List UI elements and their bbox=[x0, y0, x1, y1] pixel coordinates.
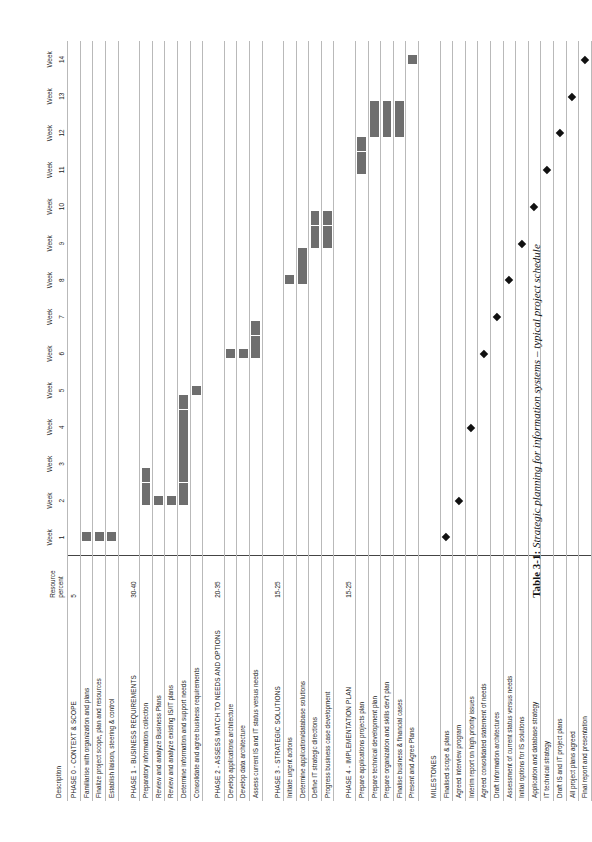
cell-week-11 bbox=[118, 151, 128, 188]
table-row[interactable]: Agreed consolidated statement of needs bbox=[478, 41, 491, 801]
cell-week-7 bbox=[212, 299, 224, 336]
milestone-diamond bbox=[505, 276, 514, 285]
cell-week-10 bbox=[381, 188, 394, 225]
table-row[interactable]: Review and analyze existing IS/IT plans bbox=[165, 41, 178, 801]
cell-week-5 bbox=[478, 372, 491, 409]
table-row[interactable]: PHASE 1 - BUSINESS REQUIREMENTS30-40 bbox=[128, 41, 140, 801]
table-row[interactable]: PHASE 3 - STRATEGIC SOLUTIONS15-25 bbox=[272, 41, 284, 801]
cell-week-4 bbox=[165, 409, 178, 446]
cell-week-10 bbox=[541, 188, 554, 225]
table-row[interactable]: Prepare technical development plan bbox=[368, 41, 381, 801]
cell-week-2 bbox=[105, 482, 118, 519]
cell-week-2 bbox=[212, 482, 224, 519]
table-row[interactable]: Present and Agree Plans bbox=[406, 41, 419, 801]
cell-week-10 bbox=[478, 188, 491, 225]
cell-week-13 bbox=[553, 78, 566, 115]
cell-week-8 bbox=[541, 262, 554, 299]
gantt-bar bbox=[82, 532, 91, 541]
cell-week-10 bbox=[224, 188, 237, 225]
table-row[interactable]: IT technical strategy bbox=[541, 41, 554, 801]
cell-week-4 bbox=[140, 409, 153, 446]
table-row[interactable]: Develop data architecture bbox=[237, 41, 250, 801]
milestone-diamond bbox=[530, 202, 539, 211]
week-word: Week bbox=[46, 346, 53, 362]
gantt-bar bbox=[383, 115, 392, 137]
spacer-row bbox=[419, 41, 429, 801]
table-row[interactable]: Develop applications architecture bbox=[224, 41, 237, 801]
cell-week-13 bbox=[321, 78, 334, 115]
table-row[interactable]: Finalised scope & plans bbox=[440, 41, 453, 801]
cell-week-6 bbox=[516, 335, 529, 372]
cell-week-13 bbox=[343, 78, 355, 115]
week-number: 2 bbox=[58, 499, 65, 503]
cell-week-5 bbox=[491, 372, 504, 409]
cell-week-12 bbox=[465, 115, 478, 152]
cell-week-14 bbox=[465, 41, 478, 78]
cell-week-11 bbox=[93, 151, 106, 188]
cell-week-9 bbox=[224, 225, 237, 262]
table-row[interactable]: Prepare organization and skills dev't pl… bbox=[381, 41, 394, 801]
table-row[interactable]: Application and database strategy bbox=[528, 41, 541, 801]
task-label: Application and database strategy bbox=[528, 601, 541, 801]
table-row[interactable]: Consolidate and agree business requireme… bbox=[190, 41, 203, 801]
cell-week-13 bbox=[541, 78, 554, 115]
cell-week-4 bbox=[419, 409, 429, 446]
table-row[interactable]: Draft Information architectures bbox=[491, 41, 504, 801]
cell-week-4 bbox=[381, 409, 394, 446]
milestone-diamond bbox=[455, 497, 464, 506]
table-row[interactable]: Define IT strategic directions bbox=[309, 41, 322, 801]
cell-week-9 bbox=[368, 225, 381, 262]
cell-week-11 bbox=[393, 151, 406, 188]
table-row[interactable]: MILESTONES bbox=[428, 41, 440, 801]
cell-week-2 bbox=[334, 482, 344, 519]
table-row[interactable]: Establish liaison, steering & control bbox=[105, 41, 118, 801]
cell-week-14 bbox=[440, 41, 453, 78]
table-row[interactable]: Determine information and support needs bbox=[177, 41, 190, 801]
cell-week-7 bbox=[440, 299, 453, 336]
cell-week-8 bbox=[237, 262, 250, 299]
cell-week-2 bbox=[272, 482, 284, 519]
table-row[interactable]: Finalise business & financial cases bbox=[393, 41, 406, 801]
cell-week-1 bbox=[368, 519, 381, 556]
cell-week-3 bbox=[68, 446, 81, 483]
cell-week-7 bbox=[249, 299, 262, 336]
table-row[interactable]: Progress business case development bbox=[321, 41, 334, 801]
table-row[interactable]: PHASE 4 - IMPLEMENTATION PLAN15-25 bbox=[343, 41, 355, 801]
cell-week-6 bbox=[118, 335, 128, 372]
table-row[interactable]: Agreed interview program bbox=[453, 41, 466, 801]
table-row[interactable]: Initiate urgent actions bbox=[284, 41, 297, 801]
cell-week-4 bbox=[68, 409, 81, 446]
table-row[interactable]: All project plans agreed bbox=[566, 41, 579, 801]
cell-week-6 bbox=[68, 335, 81, 372]
table-row[interactable]: Prepare applications projects plan bbox=[356, 41, 369, 801]
table-row[interactable]: Finalize project scope, plan and resourc… bbox=[93, 41, 106, 801]
cell-week-2 bbox=[140, 482, 153, 519]
table-row[interactable]: PHASE 2 - ASSESS MATCH TO NEEDS AND OPTI… bbox=[212, 41, 224, 801]
cell-week-12 bbox=[203, 115, 213, 152]
cell-week-6 bbox=[284, 335, 297, 372]
cell-week-2 bbox=[381, 482, 394, 519]
table-row[interactable]: Assessment of current status versus need… bbox=[503, 41, 516, 801]
table-row[interactable]: Final report and presentation bbox=[579, 41, 592, 801]
table-row[interactable]: Interim report on high priority issues bbox=[465, 41, 478, 801]
cell-week-1 bbox=[118, 519, 128, 556]
table-row[interactable]: Assess current IS and IT status versus n… bbox=[249, 41, 262, 801]
cell-week-3 bbox=[296, 446, 309, 483]
cell-week-6 bbox=[321, 335, 334, 372]
cell-week-6 bbox=[440, 335, 453, 372]
table-row[interactable]: Familiarise with organization and plans bbox=[80, 41, 93, 801]
table-row[interactable]: PHASE 0 - CONTEXT & SCOPE5 bbox=[68, 41, 81, 801]
table-row[interactable]: Preparatory information collection bbox=[140, 41, 153, 801]
table-row[interactable]: Initial options for IS solutions bbox=[516, 41, 529, 801]
week-word: Week bbox=[46, 235, 53, 251]
task-label: Consolidate and agree business requireme… bbox=[190, 601, 203, 801]
cell-week-9 bbox=[478, 225, 491, 262]
table-row[interactable]: Draft IS and IT project plans bbox=[553, 41, 566, 801]
table-row[interactable]: Review and analyze Business Plans bbox=[152, 41, 165, 801]
column-header-resource-percent: Resourcepercent bbox=[44, 556, 68, 601]
resource-percent-value bbox=[177, 556, 190, 601]
cell-week-4 bbox=[128, 409, 140, 446]
cell-week-14 bbox=[491, 41, 504, 78]
table-row[interactable]: Determine application/database solutions bbox=[296, 41, 309, 801]
cell-week-10 bbox=[321, 188, 334, 225]
